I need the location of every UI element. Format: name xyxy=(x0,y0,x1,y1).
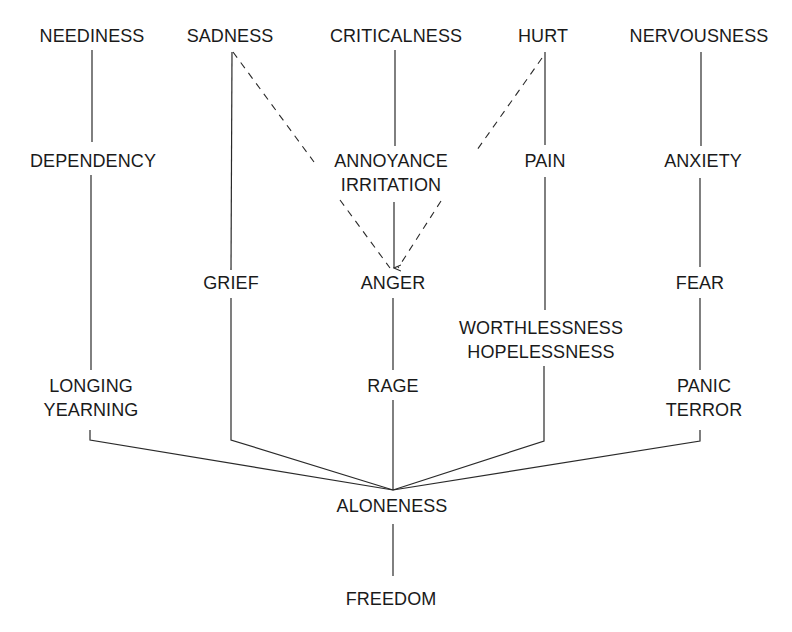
node-label: GRIEF xyxy=(203,271,259,295)
node-label: ANXIETY xyxy=(664,149,742,173)
edge-hurt-annoyance-dashed xyxy=(477,58,542,150)
node-aloneness: ALONENESS xyxy=(337,494,448,518)
node-label: IRRITATION xyxy=(334,173,448,197)
node-label: CRITICALNESS xyxy=(330,24,462,48)
node-label: HOPELESSNESS xyxy=(459,340,623,364)
node-label: RAGE xyxy=(367,374,418,398)
node-label: WORTHLESSNESS xyxy=(459,316,623,340)
node-sadness: SADNESS xyxy=(187,24,274,48)
node-label: NERVOUSNESS xyxy=(630,24,769,48)
node-label: ANNOYANCE xyxy=(334,149,448,173)
node-nervousness: NERVOUSNESS xyxy=(630,24,769,48)
node-label: TERROR xyxy=(666,398,743,422)
node-criticalness: CRITICALNESS xyxy=(330,24,462,48)
node-annoyance-irritation: ANNOYANCE IRRITATION xyxy=(334,149,448,197)
node-label: ANGER xyxy=(361,271,426,295)
node-hurt: HURT xyxy=(518,24,568,48)
connector-lines xyxy=(0,0,792,632)
node-label: LONGING xyxy=(44,374,139,398)
edge-hurt-anger-dashed xyxy=(398,201,441,268)
node-label: HURT xyxy=(518,24,568,48)
edge-sadness-grief xyxy=(231,52,232,270)
node-label: ALONENESS xyxy=(337,494,448,518)
node-label: FREEDOM xyxy=(346,587,437,611)
node-worthlessness-hopelessness: WORTHLESSNESS HOPELESSNESS xyxy=(459,316,623,364)
node-label: SADNESS xyxy=(187,24,274,48)
node-dependency: DEPENDENCY xyxy=(30,149,156,173)
node-label: FEAR xyxy=(676,271,724,295)
node-label: PAIN xyxy=(524,149,565,173)
edge-panic-aloneness xyxy=(393,430,700,490)
node-label: DEPENDENCY xyxy=(30,149,156,173)
node-anxiety: ANXIETY xyxy=(664,149,742,173)
edge-sadness-anger-dashed xyxy=(340,200,390,268)
node-panic-terror: PANIC TERROR xyxy=(666,374,743,422)
node-fear: FEAR xyxy=(676,271,724,295)
node-freedom: FREEDOM xyxy=(346,587,437,611)
node-pain: PAIN xyxy=(524,149,565,173)
node-neediness: NEEDINESS xyxy=(40,24,145,48)
node-anger: ANGER xyxy=(361,271,426,295)
edge-longing-aloneness xyxy=(90,430,393,490)
node-grief: GRIEF xyxy=(203,271,259,295)
edge-sadness-annoyance-dashed xyxy=(233,52,314,162)
node-label: NEEDINESS xyxy=(40,24,145,48)
emotion-flow-diagram: NEEDINESS SADNESS CRITICALNESS HURT NERV… xyxy=(0,0,792,632)
node-label: YEARNING xyxy=(44,398,139,422)
node-rage: RAGE xyxy=(367,374,418,398)
node-longing-yearning: LONGING YEARNING xyxy=(44,374,139,422)
node-label: PANIC xyxy=(666,374,743,398)
